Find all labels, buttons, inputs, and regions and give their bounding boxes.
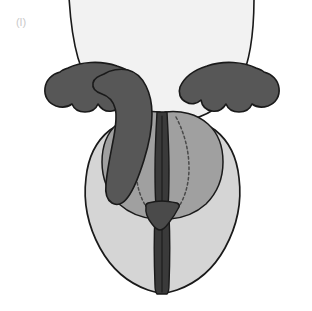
anatomical-figure bbox=[0, 0, 312, 311]
figure-panel: (l) bbox=[0, 0, 312, 311]
panel-label: (l) bbox=[16, 16, 26, 29]
